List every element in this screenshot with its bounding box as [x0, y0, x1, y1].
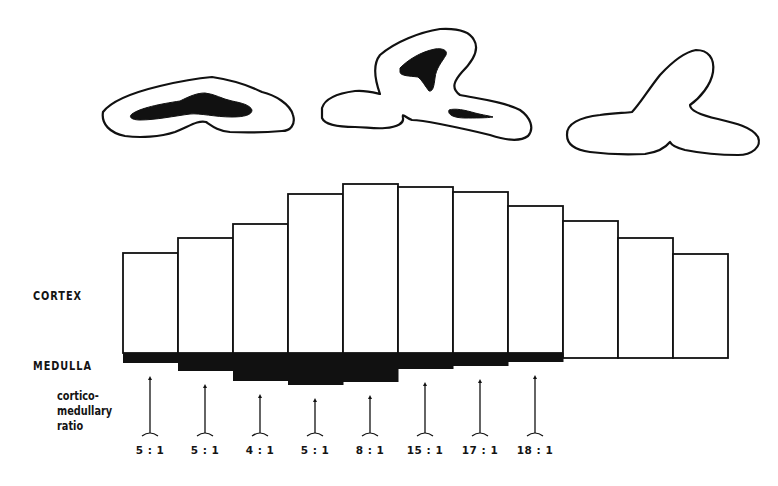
ratio-label-line2: medullary	[57, 403, 112, 418]
ratio-value: 8 : 1	[356, 444, 385, 456]
cortex-bar	[343, 184, 398, 353]
cortex-bar	[508, 206, 563, 353]
ratio-arrow	[472, 379, 488, 436]
cortex-bar	[453, 192, 508, 353]
cortex-bar	[288, 194, 343, 353]
ratio-value: 4 : 1	[246, 444, 275, 456]
cortex-bar	[178, 238, 233, 353]
ratio-value: 17 : 1	[462, 444, 498, 456]
medulla-bar	[178, 353, 234, 371]
medulla-bar	[343, 353, 399, 382]
medulla-label: MEDULLA	[33, 358, 92, 373]
medulla-bars	[123, 353, 564, 385]
kidney-cortex-medulla-figure	[0, 0, 778, 486]
cortex-bar	[563, 221, 618, 358]
medulla-bar	[123, 353, 179, 363]
ratio-arrow	[197, 384, 213, 436]
medulla-bar	[288, 353, 344, 385]
medulla-bar	[398, 353, 454, 369]
kidney-section-2	[322, 29, 531, 140]
medulla-bar	[233, 353, 289, 381]
ratio-label-line3: ratio	[57, 418, 112, 433]
cortex-bars	[123, 184, 728, 358]
cortex-bar	[233, 224, 288, 353]
kidney-section-3	[567, 50, 759, 155]
cortex-bar	[618, 238, 673, 358]
ratio-value: 5 : 1	[136, 444, 165, 456]
ratio-arrow	[142, 376, 158, 436]
ratio-arrow	[527, 375, 543, 436]
ratio-arrow	[417, 382, 433, 436]
ratio-arrow	[362, 395, 378, 436]
cortex-bar	[398, 187, 453, 353]
ratio-arrow	[307, 398, 323, 436]
ratio-label-line1: cortico-	[57, 388, 112, 403]
ratio-value: 15 : 1	[407, 444, 443, 456]
cortex-bar	[673, 254, 728, 358]
ratio-label: cortico- medullary ratio	[57, 388, 112, 433]
ratio-value: 5 : 1	[191, 444, 220, 456]
cortex-label: CORTEX	[33, 288, 82, 303]
medulla-bar	[508, 353, 564, 362]
kidney-section-1	[103, 77, 294, 137]
medulla-bar	[453, 353, 509, 366]
ratio-value: 18 : 1	[517, 444, 553, 456]
ratio-value: 5 : 1	[301, 444, 330, 456]
ratio-arrow	[252, 394, 268, 436]
cortex-bar	[123, 253, 178, 353]
